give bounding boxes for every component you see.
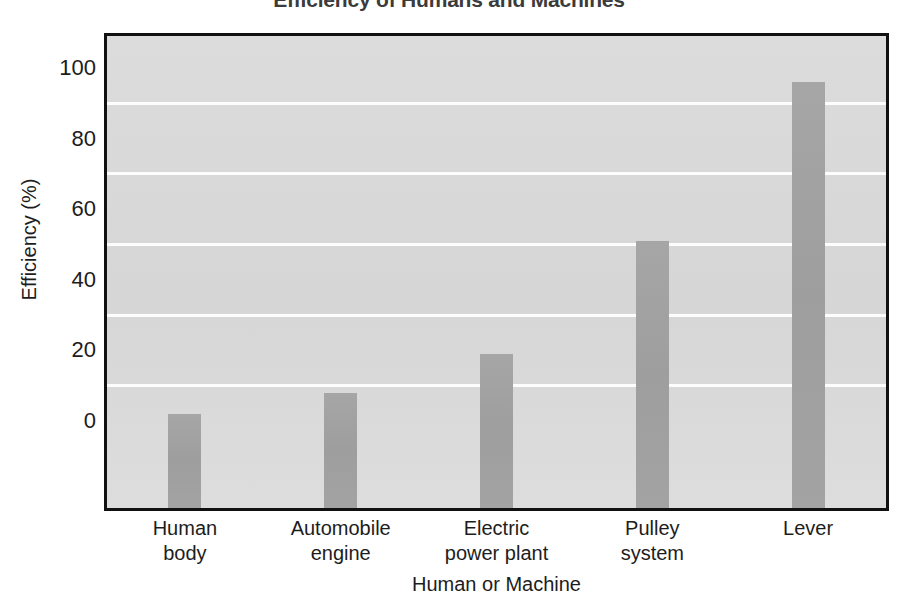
plot-area <box>104 33 889 511</box>
gridline <box>107 314 886 317</box>
bar <box>636 241 669 508</box>
y-axis-tick-label: 60 <box>4 198 96 220</box>
x-axis-tick-label-line: body <box>95 541 275 566</box>
x-axis-tick-label-line: system <box>562 541 742 566</box>
y-axis-tick-label: 100 <box>4 57 96 79</box>
gridline <box>107 172 886 175</box>
bar <box>324 393 357 508</box>
chart-title: Efficiency of Humans and Machines <box>0 0 898 12</box>
y-axis-tick-labels: 020406080100 <box>0 0 96 606</box>
chart-figure: Efficiency of Humans and Machines Effici… <box>0 0 898 606</box>
x-axis-tick-label-line: Human <box>95 516 275 541</box>
bar <box>480 354 513 508</box>
bar <box>792 82 825 508</box>
x-axis-tick-label: Automobileengine <box>251 516 431 566</box>
x-axis-tick-label: Electricpower plant <box>407 516 587 566</box>
x-axis-tick-label-line: engine <box>251 541 431 566</box>
gridline <box>107 102 886 105</box>
x-axis-tick-label-line: power plant <box>407 541 587 566</box>
x-axis-tick-label: Pulleysystem <box>562 516 742 566</box>
y-axis-tick-label: 0 <box>4 410 96 432</box>
y-axis-tick-label: 40 <box>4 269 96 291</box>
x-axis-tick-labels: HumanbodyAutomobileengineElectricpower p… <box>104 516 889 572</box>
plot-background <box>107 36 886 508</box>
y-axis-tick-label: 20 <box>4 339 96 361</box>
x-axis-tick-label: Humanbody <box>95 516 275 566</box>
x-axis-tick-label-line: Pulley <box>562 516 742 541</box>
bar <box>168 414 201 508</box>
x-axis-tick-label: Lever <box>718 516 898 541</box>
x-axis-title: Human or Machine <box>104 573 889 596</box>
x-axis-tick-label-line: Electric <box>407 516 587 541</box>
gridline <box>107 243 886 246</box>
y-axis-tick-label: 80 <box>4 128 96 150</box>
x-axis-tick-label-line: Lever <box>718 516 898 541</box>
x-axis-tick-label-line: Automobile <box>251 516 431 541</box>
